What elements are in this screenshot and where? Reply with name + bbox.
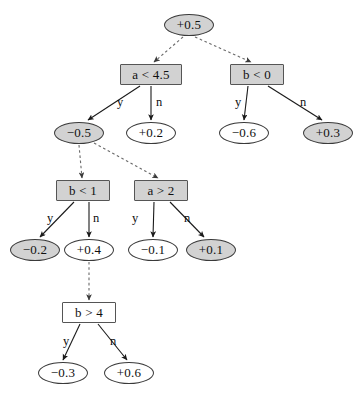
node-label: −0.2	[23, 242, 47, 258]
edge-label-lb_b4_y: y	[63, 334, 69, 349]
node-label: −0.1	[141, 242, 165, 258]
decision-node-n_b0[interactable]: b < 0	[230, 64, 284, 85]
decision-node-n_a2[interactable]: a > 2	[134, 180, 188, 201]
tree-edge-dashed	[79, 145, 82, 178]
node-label: −0.5	[67, 125, 91, 141]
node-label: b > 4	[75, 305, 103, 321]
edge-label-lb_a45_n: n	[156, 95, 162, 110]
tree-edge-solid	[244, 86, 248, 120]
value-node-n_p02[interactable]: +0.2	[126, 122, 176, 144]
tree-edge-solid	[268, 86, 322, 120]
node-label: +0.4	[77, 242, 101, 258]
tree-edge-dashed	[94, 143, 158, 178]
node-label: +0.1	[199, 242, 223, 258]
edge-label-lb_a2_y: y	[132, 211, 138, 226]
tree-edge-solid	[153, 202, 154, 237]
tree-edge-solid	[40, 202, 74, 237]
decision-tree-diagram: +0.5a < 4.5b < 0−0.5+0.2−0.6+0.3b < 1a >…	[0, 0, 360, 397]
value-node-n_m02[interactable]: −0.2	[10, 239, 60, 261]
node-label: −0.6	[232, 125, 256, 141]
tree-edge-dashed	[195, 37, 251, 62]
edge-label-lb_a2_n: n	[184, 211, 190, 226]
decision-node-n_b1[interactable]: b < 1	[56, 180, 110, 201]
edge-label-lb_b0_n: n	[300, 95, 306, 110]
value-node-n_m06[interactable]: −0.6	[219, 122, 269, 144]
edge-label-lb_b4_n: n	[110, 334, 116, 349]
value-node-n_root[interactable]: +0.5	[164, 14, 214, 36]
value-node-n_p03[interactable]: +0.3	[303, 122, 353, 144]
edge-label-lb_a45_y: y	[117, 95, 123, 110]
node-label: +0.2	[139, 125, 163, 141]
node-label: a < 4.5	[132, 67, 169, 83]
value-node-n_p06[interactable]: +0.6	[104, 362, 154, 384]
node-label: +0.6	[117, 365, 141, 381]
node-label: +0.3	[316, 125, 340, 141]
value-node-n_m03[interactable]: −0.3	[38, 362, 88, 384]
tree-edge-solid	[88, 86, 140, 120]
edge-label-lb_b1_y: y	[47, 211, 53, 226]
node-label: b < 1	[69, 183, 97, 199]
decision-node-n_b4[interactable]: b > 4	[62, 302, 116, 323]
value-node-n_m05[interactable]: −0.5	[54, 122, 104, 144]
edge-label-lb_b0_y: y	[235, 95, 241, 110]
decision-node-n_a45[interactable]: a < 4.5	[120, 64, 182, 85]
edge-label-lb_b1_n: n	[93, 211, 99, 226]
value-node-n_m01[interactable]: −0.1	[128, 239, 178, 261]
node-label: +0.5	[177, 17, 201, 33]
value-node-n_p04[interactable]: +0.4	[64, 239, 114, 261]
node-label: −0.3	[51, 365, 75, 381]
node-label: b < 0	[243, 67, 271, 83]
value-node-n_p01[interactable]: +0.1	[186, 239, 236, 261]
tree-edge-dashed	[154, 37, 183, 62]
node-label: a > 2	[147, 183, 174, 199]
